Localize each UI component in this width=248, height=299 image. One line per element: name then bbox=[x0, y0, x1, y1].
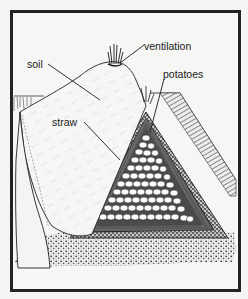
label-soil: soil bbox=[27, 59, 43, 70]
clamp-diagram: ventilation soil potatoes straw bbox=[0, 0, 248, 299]
diagram-illustration bbox=[0, 0, 248, 299]
label-potatoes: potatoes bbox=[163, 69, 203, 80]
label-ventilation: ventilation bbox=[144, 41, 191, 52]
label-straw: straw bbox=[52, 117, 77, 128]
